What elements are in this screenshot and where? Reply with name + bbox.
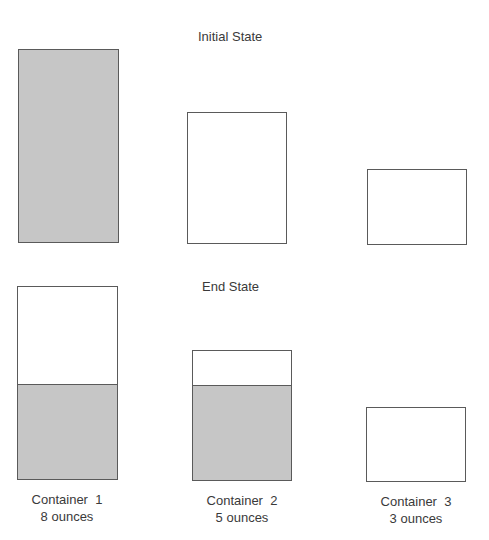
container-1-name: Container 1	[32, 492, 103, 507]
end-state-title: End State	[202, 279, 259, 294]
container-3-capacity: 3 ounces	[390, 511, 443, 526]
container-2-capacity: 5 ounces	[216, 510, 269, 525]
container-2-label: Container 25 ounces	[172, 492, 312, 526]
end-container-1-liquid	[18, 384, 117, 479]
container-2-name: Container 2	[207, 493, 278, 508]
container-1-capacity: 8 ounces	[41, 509, 94, 524]
initial-container-1-liquid	[19, 50, 118, 242]
initial-container-2	[187, 112, 287, 244]
end-container-2	[192, 350, 292, 481]
container-3-name: Container 3	[381, 494, 452, 509]
initial-state-title: Initial State	[198, 29, 262, 44]
initial-container-1	[18, 49, 119, 243]
end-container-2-liquid	[193, 385, 291, 480]
end-container-1	[17, 286, 118, 480]
end-container-3	[366, 407, 466, 482]
container-3-label: Container 33 ounces	[346, 493, 486, 527]
container-1-label: Container 18 ounces	[0, 491, 137, 525]
initial-container-3	[367, 169, 467, 245]
